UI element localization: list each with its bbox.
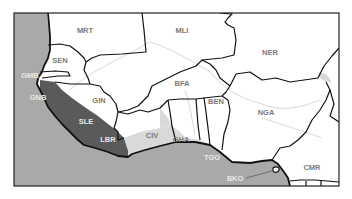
label-gnb: GNB: [30, 93, 47, 102]
label-bko: BKO: [227, 174, 244, 183]
label-lbr: LBR: [100, 135, 116, 144]
label-gin: GIN: [92, 96, 105, 105]
label-civ: CIV: [146, 131, 159, 140]
label-mrt: MRT: [77, 26, 94, 35]
label-gha: GHA: [173, 135, 190, 144]
bioko-island: [273, 167, 279, 172]
label-ner: NER: [262, 48, 278, 57]
label-cmr: CMR: [303, 163, 321, 172]
label-sle: SLE: [79, 117, 94, 126]
west-africa-map: MRT MLI NER SEN GMB GNB GIN SLE LBR CIV …: [0, 0, 352, 199]
label-ben: BEN: [208, 97, 224, 106]
label-bfa: BFA: [175, 79, 191, 88]
label-nga: NGA: [258, 108, 275, 117]
label-sen: SEN: [52, 56, 67, 65]
label-mli: MLI: [176, 26, 189, 35]
label-gmb: GMB: [21, 71, 39, 80]
label-tgo: TGO: [204, 153, 220, 162]
